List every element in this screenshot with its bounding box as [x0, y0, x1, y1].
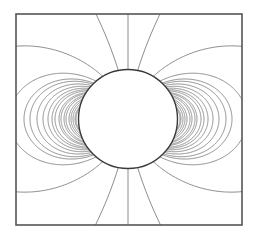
dipole-field-diagram: [0, 0, 257, 235]
sphere: [79, 70, 178, 169]
